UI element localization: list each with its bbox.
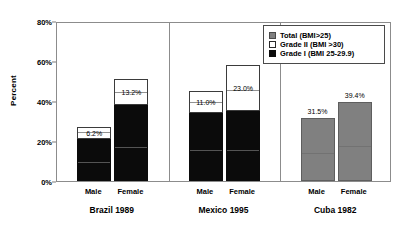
legend-swatch-icon xyxy=(269,32,276,39)
y-axis-tick-mark xyxy=(52,62,56,63)
bar-inner-rule xyxy=(190,150,222,151)
x-axis-group-label: Cuba 1982 xyxy=(314,205,357,215)
bar-chart: Percent 0%20%40%60%80% 6.2%13.2%11.0%23.… xyxy=(0,0,407,226)
bar[interactable]: 6.2% xyxy=(77,127,111,181)
bar-value-label: 23.0% xyxy=(227,85,259,92)
bar-inner-rule xyxy=(339,146,371,147)
y-axis-tick-mark xyxy=(52,102,56,103)
legend-item[interactable]: Total (BMI>25) xyxy=(269,32,379,40)
bar-inner-rule xyxy=(227,150,259,151)
x-axis-category-label: Male xyxy=(85,187,102,196)
bar-inner-rule xyxy=(302,153,334,154)
y-axis-tick-mark xyxy=(52,182,56,183)
bar-segment[interactable] xyxy=(114,105,148,181)
legend-label: Grade I (BMI 25-29.9) xyxy=(280,50,354,58)
bar-value-label: 11.0% xyxy=(190,99,222,106)
x-axis-group-label: Brazil 1989 xyxy=(90,205,134,215)
bar-value-label: 39.4% xyxy=(333,92,377,99)
legend-item[interactable]: Grade I (BMI 25-29.9) xyxy=(269,50,379,58)
bar-segment[interactable]: 11.0% xyxy=(189,91,223,113)
y-axis: 0%20%40%60%80% xyxy=(22,0,52,226)
legend-swatch-icon xyxy=(269,50,276,57)
y-axis-title: Percent xyxy=(9,56,18,126)
bar[interactable]: 13.2% xyxy=(114,79,148,181)
bar-segment[interactable]: 6.2% xyxy=(77,127,111,139)
group-separator xyxy=(169,23,170,181)
bar-segment[interactable] xyxy=(77,139,111,181)
bar-segment[interactable]: 39.4% xyxy=(338,102,372,181)
bar-inner-rule xyxy=(115,147,147,148)
bar[interactable]: 39.4% xyxy=(338,102,372,181)
y-axis-tick-label: 20% xyxy=(22,138,52,147)
bar-segment[interactable]: 31.5% xyxy=(301,118,335,181)
x-axis-group-label: Mexico 1995 xyxy=(198,205,248,215)
bar-segment[interactable]: 13.2% xyxy=(114,79,148,105)
bar-inner-rule xyxy=(78,162,110,163)
bar[interactable]: 11.0% xyxy=(189,91,223,181)
bar-segment[interactable]: 23.0% xyxy=(226,65,260,111)
bar-value-label: 31.5% xyxy=(296,108,340,115)
bar-value-label: 6.2% xyxy=(78,130,110,137)
legend-item[interactable]: Grade II (BMI >30) xyxy=(269,41,379,49)
bar[interactable]: 23.0% xyxy=(226,65,260,181)
y-axis-tick-label: 40% xyxy=(22,98,52,107)
x-axis-category-label: Female xyxy=(118,187,144,196)
chart-legend: Total (BMI>25)Grade II (BMI >30)Grade I … xyxy=(263,25,385,64)
y-axis-tick-label: 60% xyxy=(22,58,52,67)
x-axis-category-label: Female xyxy=(341,187,367,196)
x-axis-category-label: Male xyxy=(197,187,214,196)
legend-swatch-icon xyxy=(269,41,276,48)
bar-segment[interactable] xyxy=(226,111,260,181)
bar-value-label: 13.2% xyxy=(115,89,147,96)
y-axis-tick-mark xyxy=(52,22,56,23)
bar-segment[interactable] xyxy=(189,113,223,181)
y-axis-tick-label: 0% xyxy=(22,178,52,187)
x-axis-category-label: Female xyxy=(229,187,255,196)
legend-label: Grade II (BMI >30) xyxy=(280,41,344,49)
legend-label: Total (BMI>25) xyxy=(280,32,331,40)
y-axis-tick-label: 80% xyxy=(22,18,52,27)
y-axis-tick-mark xyxy=(52,142,56,143)
bar[interactable]: 31.5% xyxy=(301,118,335,181)
x-axis-category-label: Male xyxy=(308,187,325,196)
